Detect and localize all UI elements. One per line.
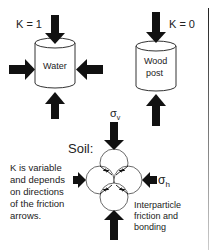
soil-explanation: K is variable and depends on directions … [10,162,65,222]
wood-label-line2: post [146,68,163,78]
sigma-h-arrow [142,172,157,188]
sigma-v-arrow [104,122,124,150]
friction-label: Interparticle friction and bonding [134,200,181,233]
wood-top-arrow [146,12,166,43]
wood-bottom-arrow [146,94,166,126]
water-k-label: K = 1 [16,18,42,30]
sigma-v-label: σv [110,107,120,121]
water-bottom-arrow [45,92,65,119]
wood-post-cylinder [136,41,176,91]
water-right-arrow [76,59,103,80]
sigma-h-label: σh [158,173,170,189]
soil-title: Soil: [68,141,93,156]
water-label: Water [43,61,67,71]
soil-left-arrow [73,172,86,188]
wood-label-line1: Wood [144,56,167,66]
wood-k-label: K = 0 [169,18,195,30]
water-left-arrow [9,59,35,80]
soil-bottom-arrow [104,210,124,240]
right-border-line [208,8,209,250]
